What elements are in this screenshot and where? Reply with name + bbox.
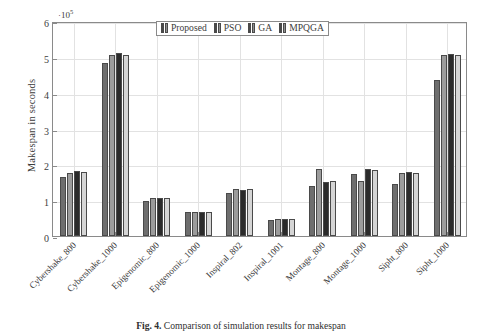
bar <box>413 173 419 236</box>
bar <box>455 55 461 236</box>
gridline-vertical <box>281 23 282 236</box>
gridline-vertical <box>198 23 199 236</box>
bar-group <box>302 169 344 236</box>
caption-text: Comparison of simulation results for mak… <box>164 320 346 331</box>
bar <box>123 55 129 236</box>
bar <box>358 181 364 236</box>
bar <box>233 189 239 236</box>
bar <box>330 181 336 236</box>
bar <box>116 53 122 236</box>
bar <box>143 201 149 236</box>
x-tick-label: Montage_800 <box>284 240 327 283</box>
bar <box>309 186 315 236</box>
y-tick-mark <box>53 23 57 24</box>
legend-swatch <box>279 23 282 33</box>
chart-legend: ProposedPSOGAMPQGA <box>156 21 329 36</box>
bar <box>185 212 191 236</box>
x-tick-label: Inspiral_802 <box>204 240 244 280</box>
bar <box>434 80 440 236</box>
caption-label: Fig. 4. <box>136 320 161 331</box>
bar <box>365 169 371 236</box>
legend-swatch <box>248 23 251 33</box>
bar <box>102 63 108 236</box>
bar <box>282 219 288 236</box>
legend-label: MPQGA <box>288 23 324 33</box>
bar <box>226 193 232 236</box>
bar <box>60 177 66 236</box>
bar <box>268 220 274 236</box>
y-axis-exponent: ·105 <box>58 8 73 20</box>
legend-swatch <box>283 23 286 33</box>
legend-swatch <box>214 23 217 33</box>
bar <box>109 55 115 236</box>
legend-swatch-group <box>248 23 255 33</box>
bar <box>392 184 398 236</box>
y-tick-label: 4 <box>44 89 49 100</box>
bar <box>316 169 322 236</box>
bar-group <box>53 171 95 236</box>
bar <box>441 55 447 236</box>
y-tick-label: 5 <box>44 53 49 64</box>
bar-group <box>385 172 427 236</box>
y-tick-mark <box>53 59 57 60</box>
plot-inner: 0123456 <box>53 23 466 236</box>
bar <box>406 172 412 236</box>
bar-group <box>178 212 220 236</box>
legend-swatch <box>252 23 255 33</box>
y-tick-mark <box>53 131 57 132</box>
figure-container: Makespan in seconds ·105 0123456 Cybersh… <box>0 0 482 333</box>
legend-entry: MPQGA <box>279 23 324 33</box>
y-tick-label: 6 <box>44 18 49 29</box>
y-tick-label: 1 <box>44 197 49 208</box>
y-tick-label: 0 <box>44 233 49 244</box>
legend-swatch-group <box>214 23 221 33</box>
x-tick-label: Inspiral_1001 <box>242 240 285 283</box>
bar-group <box>95 53 137 236</box>
bar <box>448 54 454 236</box>
bar-group <box>136 198 178 236</box>
bar <box>323 182 329 236</box>
x-tick-label: Montage_1000 <box>322 240 368 286</box>
figure-caption: Fig. 4. Comparison of simulation results… <box>0 320 482 331</box>
bar-group <box>261 219 303 236</box>
bar <box>157 198 163 236</box>
x-tick-label: Sipht_1000 <box>414 240 451 277</box>
bar <box>399 173 405 236</box>
bar <box>247 189 253 236</box>
exponent-power: 5 <box>70 8 73 15</box>
x-tick-label: Sipht_800 <box>376 240 410 274</box>
bar <box>192 212 198 236</box>
bar-group <box>219 189 261 236</box>
bar <box>240 190 246 236</box>
exponent-base: ·10 <box>58 10 70 20</box>
legend-label: PSO <box>223 23 242 33</box>
y-tick-label: 2 <box>44 161 49 172</box>
legend-swatch-group <box>279 23 286 33</box>
y-axis-label: Makespan in seconds <box>26 26 37 226</box>
y-tick-mark <box>53 166 57 167</box>
bar-group <box>427 54 469 236</box>
bar <box>67 173 73 236</box>
legend-swatch <box>165 23 168 33</box>
y-tick-mark <box>53 95 57 96</box>
bar <box>150 198 156 236</box>
legend-swatch <box>218 23 221 33</box>
bar <box>164 198 170 236</box>
legend-entry: PSO <box>214 23 242 33</box>
y-tick-label: 3 <box>44 125 49 136</box>
legend-swatch-group <box>161 23 168 33</box>
bar <box>351 174 357 236</box>
y-tick-mark <box>53 238 57 239</box>
plot-area: 0123456 <box>52 22 467 237</box>
legend-label: Proposed <box>170 23 207 33</box>
bar <box>199 212 205 236</box>
bar <box>74 171 80 236</box>
legend-swatch <box>161 23 164 33</box>
bar <box>372 170 378 236</box>
bar <box>275 219 281 236</box>
bar <box>81 172 87 236</box>
bar-group <box>344 169 386 236</box>
legend-entry: Proposed <box>161 23 207 33</box>
bar <box>289 219 295 236</box>
legend-label: GA <box>257 23 272 33</box>
